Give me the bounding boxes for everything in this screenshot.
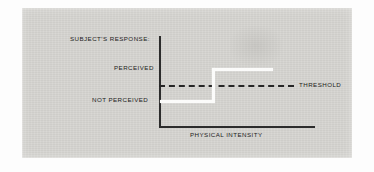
y-tick-label-perceived: PERCEIVED [114,65,154,71]
paper-blemish [230,26,282,66]
figure-container: SUBJECT'S RESPONSE: PERCEIVED NOT PERCEI… [0,0,374,172]
threshold-dashed-line [159,85,294,87]
threshold-label: THRESHOLD [299,82,341,88]
x-axis-line [159,126,315,128]
response-curve-rise-segment [212,68,215,103]
y-axis-line [159,36,161,128]
y-tick-label-not-perceived: NOT PERCEIVED [92,97,148,103]
response-curve-low-segment [160,100,214,103]
response-curve-high-segment [212,68,273,71]
x-axis-title: PHYSICAL INTENSITY [190,132,263,138]
y-axis-title: SUBJECT'S RESPONSE: [70,36,150,42]
scanned-plate: SUBJECT'S RESPONSE: PERCEIVED NOT PERCEI… [22,8,352,158]
